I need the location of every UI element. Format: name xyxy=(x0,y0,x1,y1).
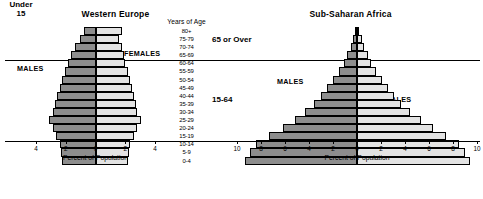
age-label: 35-39 xyxy=(163,100,210,108)
x-axis-tick-label: 0 xyxy=(89,145,103,152)
bar-female xyxy=(96,132,134,140)
x-axis-tick xyxy=(477,141,478,144)
age-label: 25-29 xyxy=(163,116,210,124)
bar-male xyxy=(57,92,95,100)
x-axis-tick xyxy=(285,141,286,144)
bar-female xyxy=(357,76,382,84)
bar-female xyxy=(357,124,433,132)
center-axis-line xyxy=(96,27,97,141)
bar-female xyxy=(96,43,122,51)
annotation-under-15-line2: 15 xyxy=(17,9,26,18)
age-label: 40-44 xyxy=(163,92,210,100)
bar-female xyxy=(96,92,134,100)
x-axis-tick xyxy=(357,141,358,144)
bar-male xyxy=(65,67,96,75)
bar-female xyxy=(96,27,122,35)
bar-male xyxy=(55,100,95,108)
bar-male xyxy=(53,124,96,132)
age-label: 80+ xyxy=(163,27,210,35)
bar-male xyxy=(49,116,95,124)
age-label: 5-9 xyxy=(163,148,210,156)
age-column-header: Years of Age xyxy=(163,18,210,25)
x-axis-tick xyxy=(333,141,334,144)
x-axis-tick xyxy=(429,141,430,144)
bar-female xyxy=(357,132,446,140)
age-label: 60-64 xyxy=(163,59,210,67)
bar-male xyxy=(305,108,357,116)
x-axis-tick-label: 0 xyxy=(350,145,364,152)
x-axis-tick-label: 4 xyxy=(29,145,43,152)
bar-male xyxy=(68,59,95,67)
bar-female xyxy=(357,116,421,124)
x-axis-tick-label: 2 xyxy=(326,145,340,152)
x-axis-tick xyxy=(96,141,97,144)
x-axis-tick-label: 2 xyxy=(374,145,388,152)
bar-female xyxy=(357,100,401,108)
years-of-age-label: Years of Age xyxy=(163,18,210,25)
bar-female xyxy=(357,51,368,59)
bar-male xyxy=(269,132,357,140)
bar-male xyxy=(327,84,357,92)
x-axis-tick-label: 6 xyxy=(278,145,292,152)
age-label: 75-79 xyxy=(163,35,210,43)
x-axis-tick xyxy=(36,141,37,144)
panel-title-western-europe: Western Europe xyxy=(58,9,173,19)
age-label: 45-49 xyxy=(163,84,210,92)
age-label: 55-59 xyxy=(163,67,210,75)
x-axis-tick-label: 6 xyxy=(422,145,436,152)
age-label: 65-69 xyxy=(163,51,210,59)
age-label: 15-19 xyxy=(163,132,210,140)
bar-female xyxy=(357,43,364,51)
bar-female xyxy=(96,76,131,84)
bar-male xyxy=(339,67,357,75)
chart-plot-western-europe xyxy=(36,27,155,141)
age-group-labels: 80+75-7970-7465-6960-6455-5950-5445-4940… xyxy=(163,27,210,165)
bar-male xyxy=(314,100,357,108)
x-axis-tick xyxy=(261,141,262,144)
bar-female xyxy=(96,116,141,124)
bar-male xyxy=(80,35,95,43)
x-axis-tick-label: 8 xyxy=(446,145,460,152)
x-axis-tick xyxy=(237,141,238,144)
bar-female xyxy=(96,35,120,43)
center-axis-line xyxy=(357,27,358,141)
bar-male xyxy=(60,84,96,92)
bar-female xyxy=(357,59,371,67)
bar-male xyxy=(333,76,357,84)
bar-female xyxy=(96,51,125,59)
x-axis-tick-label: 4 xyxy=(398,145,412,152)
bar-female xyxy=(96,59,126,67)
x-axis-tick xyxy=(453,141,454,144)
age-label: 0-4 xyxy=(163,157,210,165)
x-axis-tick-label: 8 xyxy=(254,145,268,152)
bar-female xyxy=(96,100,136,108)
bar-female xyxy=(357,84,388,92)
age-label: 30-34 xyxy=(163,108,210,116)
x-axis-title-west: Percent of Population xyxy=(36,154,155,161)
age-label: 10-14 xyxy=(163,140,210,148)
population-pyramid-figure: Western Europe Sub-Saharan Africa Years … xyxy=(0,0,483,199)
bar-female xyxy=(96,84,133,92)
x-axis-tick xyxy=(405,141,406,144)
x-axis-tick-label: 4 xyxy=(302,145,316,152)
bar-female xyxy=(96,67,128,75)
bar-female xyxy=(96,124,138,132)
age-label: 70-74 xyxy=(163,43,210,51)
x-axis-tick-label: 2 xyxy=(59,145,73,152)
age-label: 20-24 xyxy=(163,124,210,132)
x-axis-tick-label: 2 xyxy=(118,145,132,152)
x-axis-tick-label: 4 xyxy=(148,145,162,152)
bar-male xyxy=(295,116,357,124)
bar-female xyxy=(357,67,376,75)
x-axis-tick xyxy=(381,141,382,144)
x-axis-tick-label: 10 xyxy=(470,145,483,152)
bar-male xyxy=(62,76,95,84)
bar-male xyxy=(84,27,96,35)
annotation-under-15-line1: Under xyxy=(9,0,32,9)
bar-male xyxy=(71,51,96,59)
x-axis-tick xyxy=(155,141,156,144)
bar-male xyxy=(321,92,357,100)
bar-male xyxy=(75,43,95,51)
bar-female xyxy=(96,108,138,116)
bar-male xyxy=(283,124,357,132)
